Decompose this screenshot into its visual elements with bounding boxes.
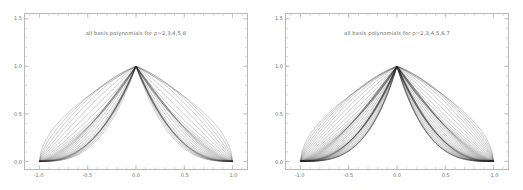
y-tick-label: 0.5 (275, 111, 283, 117)
x-tick-labels-right: -1.0-0.50.00.51.0 (285, 172, 509, 184)
y-tick-label: 0.5 (14, 111, 22, 117)
y-tick-labels-right: 0.00.51.01.5 (263, 13, 283, 170)
y-tick-label: 1.5 (275, 15, 283, 21)
x-tick-label: 1.0 (229, 172, 237, 178)
x-tick-label: -0.5 (82, 172, 92, 178)
x-tick-label: 0.0 (393, 172, 401, 178)
x-tick-label: 0.0 (132, 172, 140, 178)
y-tick-label: 0.0 (275, 159, 283, 165)
plot-panel-right: 0.00.51.01.5 all basis polynomials for p… (261, 0, 522, 190)
x-tick-label: -1.0 (34, 172, 44, 178)
x-tick-label: -1.0 (295, 172, 305, 178)
y-tick-labels-left: 0.00.51.01.5 (2, 13, 22, 170)
x-tick-label: 1.0 (490, 172, 498, 178)
axes-right: all basis polynomials for p=2,3,4,5,6,7 (285, 13, 509, 170)
y-tick-label: 1.5 (14, 15, 22, 21)
x-tick-label: 0.5 (181, 172, 189, 178)
x-tick-label: -0.5 (343, 172, 353, 178)
axes-left: all basis polynomials for p=2,3,4,5,6 (24, 13, 248, 170)
plot-panel-left: 0.00.51.01.5 all basis polynomials for p… (0, 0, 261, 190)
y-tick-label: 1.0 (275, 63, 283, 69)
x-tick-label: 0.5 (442, 172, 450, 178)
y-tick-label: 0.0 (14, 159, 22, 165)
y-tick-label: 1.0 (14, 63, 22, 69)
figure-canvas: 0.00.51.01.5 all basis polynomials for p… (0, 0, 523, 190)
curve-plot-right (286, 14, 508, 169)
x-tick-labels-left: -1.0-0.50.00.51.0 (24, 172, 248, 184)
curve-plot-left (25, 14, 247, 169)
